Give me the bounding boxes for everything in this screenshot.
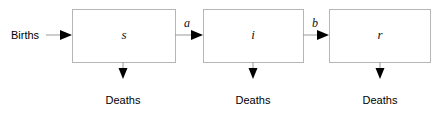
deaths-r-arrowhead-icon [376,68,385,79]
births-arrowhead-icon [60,30,72,40]
compartment-label-s: s [121,27,126,42]
rate-label-b: b [312,16,318,30]
transition-a-arrowhead-icon [191,30,203,40]
rate-label-a: a [184,16,190,30]
diagram-canvas: Births s i r a b Deaths Deaths Deaths [0,0,441,114]
deaths-s-arrowhead-icon [119,68,128,79]
compartment-label-i: i [251,27,255,42]
births-label: Births [11,29,40,41]
deaths-label-r: Deaths [363,94,398,106]
sir-flow-diagram: Births s i r a b Deaths Deaths Deaths [0,0,441,114]
deaths-label-i: Deaths [236,94,271,106]
deaths-i-arrowhead-icon [249,68,258,79]
deaths-label-s: Deaths [106,94,141,106]
transition-b-arrowhead-icon [317,30,329,40]
